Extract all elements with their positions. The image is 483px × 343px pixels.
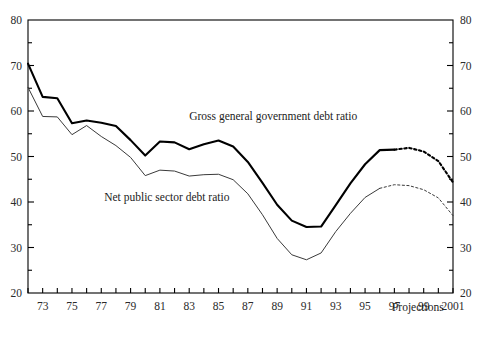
y-axis-tick-label: 40 bbox=[460, 196, 472, 208]
x-axis-tick-label: 85 bbox=[213, 300, 225, 312]
y-axis-tick-label: 20 bbox=[11, 287, 23, 299]
x-axis-tick-label: 2001 bbox=[442, 300, 465, 312]
projections-note: Projections bbox=[392, 301, 444, 314]
x-axis-tick-label: 89 bbox=[271, 300, 283, 312]
axes-frame bbox=[28, 20, 453, 293]
y-axis-tick-label: 30 bbox=[11, 242, 23, 254]
plot-frame bbox=[28, 20, 453, 293]
y-axis-tick-label: 50 bbox=[11, 151, 23, 163]
x-axis-tick-label: 77 bbox=[96, 300, 108, 312]
x-axis-tick-label: 73 bbox=[37, 300, 49, 312]
y-axis-tick-label: 70 bbox=[460, 60, 472, 72]
y-axis-tick-label: 30 bbox=[460, 242, 472, 254]
x-axis-tick-label: 75 bbox=[66, 300, 78, 312]
y-axis-tick-label: 60 bbox=[11, 105, 23, 117]
x-axis-tick-label: 79 bbox=[125, 300, 137, 312]
series-line bbox=[394, 148, 453, 183]
series-annotation-label: Net public sector debt ratio bbox=[104, 191, 229, 204]
chart-canvas: 20304050607080 20304050607080 7375777981… bbox=[0, 0, 483, 343]
y-axis-left-labels: 20304050607080 bbox=[11, 14, 23, 299]
y-axis-tick-label: 40 bbox=[11, 196, 23, 208]
y-axis-right-labels: 20304050607080 bbox=[460, 14, 472, 299]
y-axis-tick-label: 70 bbox=[11, 60, 23, 72]
chart-annotations: Gross general government debt ratioNet p… bbox=[104, 110, 444, 314]
y-axis-right-ticks bbox=[447, 43, 453, 271]
x-axis-tick-label: 83 bbox=[183, 300, 195, 312]
x-axis-tick-label: 81 bbox=[154, 300, 166, 312]
y-axis-tick-label: 20 bbox=[460, 287, 472, 299]
x-axis-tick-label: 93 bbox=[330, 300, 342, 312]
x-axis-ticks bbox=[28, 288, 453, 293]
series-lines bbox=[28, 64, 453, 260]
x-axis-tick-label: 95 bbox=[359, 300, 371, 312]
y-axis-tick-label: 80 bbox=[460, 14, 472, 26]
y-axis-tick-label: 60 bbox=[460, 105, 472, 117]
x-axis-tick-label: 91 bbox=[301, 300, 313, 312]
series-line bbox=[380, 185, 453, 216]
x-axis-tick-label: 87 bbox=[242, 300, 254, 312]
y-axis-tick-label: 50 bbox=[460, 151, 472, 163]
debt-ratio-chart: 20304050607080 20304050607080 7375777981… bbox=[0, 0, 483, 343]
series-annotation-label: Gross general government debt ratio bbox=[189, 110, 357, 123]
y-axis-tick-label: 80 bbox=[11, 14, 23, 26]
